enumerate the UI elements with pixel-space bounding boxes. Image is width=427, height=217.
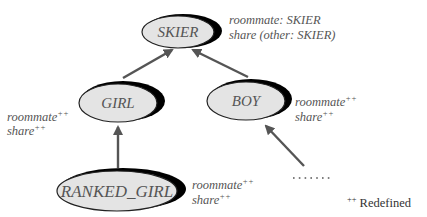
feature-girl-share: share++ [7,122,46,138]
node-girl[interactable]: GIRL [79,81,165,122]
feature-boy-roommate: roommate++ [295,93,357,109]
feature-boy-share: share++ [295,108,334,124]
inheritance-diagram: SKIER roommate: SKIER share (other: SKIE… [0,0,427,217]
node-skier[interactable]: SKIER [142,14,222,48]
feature-skier-roommate: roommate: SKIER [229,13,321,27]
feature-ranked-girl-share: share++ [192,191,231,207]
node-label-ranked-girl: RANKED_GIRL [60,182,173,201]
edge-girl-to-skier [123,50,172,78]
edge-descendant-to-boy [266,126,304,166]
node-label-girl: GIRL [101,95,134,111]
node-ranked-girl[interactable]: RANKED_GIRL [57,168,186,211]
edge-boy-to-skier [193,50,248,77]
node-label-boy: BOY [232,93,262,109]
legend-redefined: ++Redefined [347,194,412,210]
node-label-skier: SKIER [158,24,199,40]
node-boy[interactable]: BOY [207,79,292,120]
feature-skier-share: share (other: SKIER) [229,28,335,42]
feature-ranked-girl-roommate: roommate++ [192,176,254,192]
